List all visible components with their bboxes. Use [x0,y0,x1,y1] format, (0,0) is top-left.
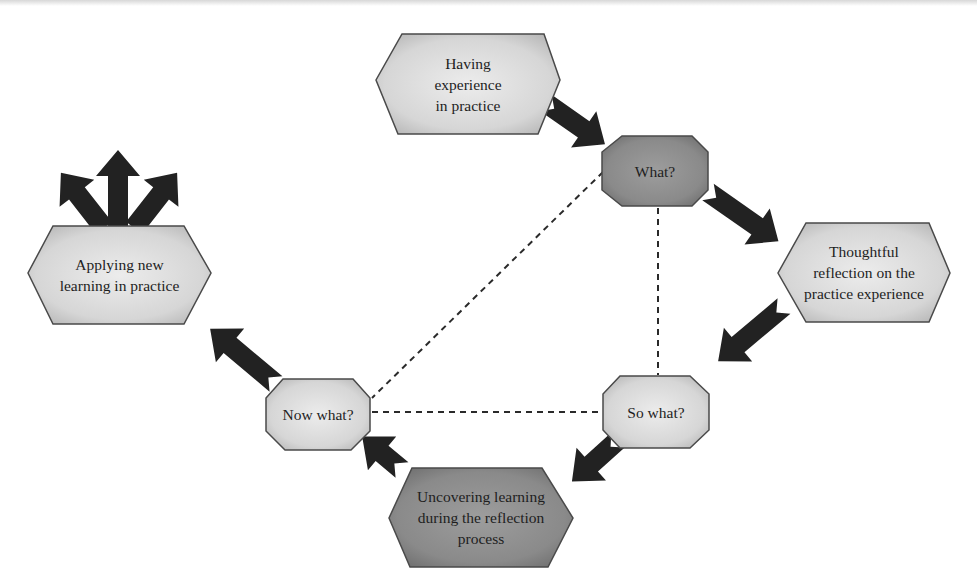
node-thoughtful-reflection [778,223,950,322]
dashed-connectors [372,172,658,412]
arrow-reflection-to-so-what-icon [704,289,798,378]
dashed-line-what-now-what [372,172,603,398]
node-now-what [266,379,370,450]
diagram-nodes [28,34,950,567]
node-having-experience [376,34,560,134]
node-applying-learning [28,226,211,324]
node-so-what [603,376,709,448]
arrow-what-to-reflection-icon [695,174,791,259]
node-uncovering-learning [389,468,573,567]
reflection-cycle-diagram [0,0,977,585]
node-what [602,136,708,206]
